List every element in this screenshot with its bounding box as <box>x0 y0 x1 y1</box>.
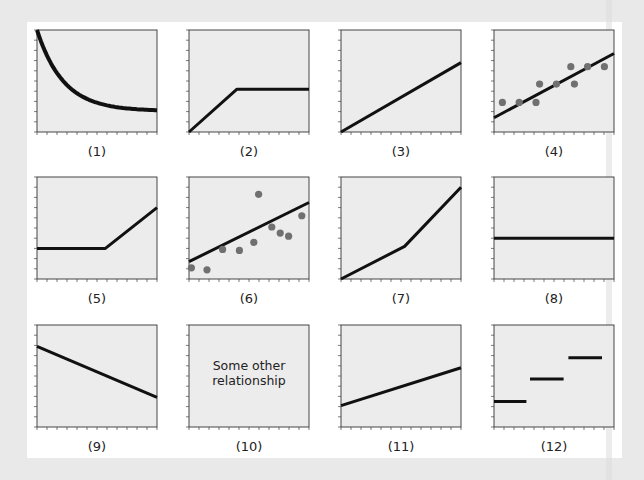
data-point <box>571 80 578 87</box>
plot-6: (6) <box>186 177 309 306</box>
plot-9: (9) <box>34 325 157 454</box>
data-point <box>285 233 292 240</box>
plot-1: (1) <box>34 30 157 159</box>
data-point <box>298 212 305 219</box>
plot-frame <box>494 177 614 279</box>
data-point <box>532 99 539 106</box>
data-point <box>236 247 243 254</box>
plot-frame <box>37 30 157 132</box>
plot-5: (5) <box>34 177 157 306</box>
plot-11: (11) <box>338 325 461 454</box>
plot-frame <box>341 30 461 132</box>
plot-frame <box>37 177 157 279</box>
plot-label: (4) <box>545 144 563 159</box>
data-point <box>255 191 262 198</box>
plot-3: (3) <box>338 30 461 159</box>
plot-4: (4) <box>491 30 614 159</box>
data-point <box>567 63 574 70</box>
data-point <box>516 99 523 106</box>
data-point <box>553 80 560 87</box>
plot-frame <box>494 325 614 427</box>
plot-label: (12) <box>541 439 568 454</box>
plot-label: (7) <box>392 291 410 306</box>
annotation-line-1: Some other <box>213 358 287 373</box>
plot-label: (10) <box>236 439 263 454</box>
plot-label: (8) <box>545 291 563 306</box>
plot-label: (6) <box>240 291 258 306</box>
plot-label: (9) <box>88 439 106 454</box>
plot-label: (11) <box>388 439 415 454</box>
plot-label: (2) <box>240 144 258 159</box>
plot-7: (7) <box>338 177 461 306</box>
annotation-line-2: relationship <box>212 373 286 388</box>
plot-8: (8) <box>491 177 614 306</box>
plot-frame <box>37 325 157 427</box>
relationship-figure: (1)(2)(3)(4)(5)(6)(7)(8)(9)Some otherrel… <box>0 0 644 480</box>
data-point <box>601 63 608 70</box>
plot-label: (3) <box>392 144 410 159</box>
plot-frame <box>189 177 309 279</box>
plot-12: (12) <box>491 325 614 454</box>
data-point <box>203 266 210 273</box>
data-point <box>536 80 543 87</box>
plot-label: (5) <box>88 291 106 306</box>
plot-label: (1) <box>88 144 106 159</box>
plot-frame <box>341 177 461 279</box>
plot-2: (2) <box>186 30 309 159</box>
data-point <box>277 230 284 237</box>
data-point <box>188 264 195 271</box>
plot-frame <box>494 30 614 132</box>
plot-frame <box>341 325 461 427</box>
plot-10: Some otherrelationship(10) <box>186 325 309 454</box>
data-point <box>250 239 257 246</box>
data-point <box>499 99 506 106</box>
data-point <box>584 63 591 70</box>
data-point <box>268 223 275 230</box>
data-point <box>219 246 226 253</box>
